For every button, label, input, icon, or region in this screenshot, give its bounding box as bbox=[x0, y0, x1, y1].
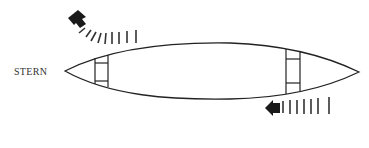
stern-label: STERN bbox=[14, 66, 47, 77]
motion-line bbox=[91, 32, 96, 41]
canoe-hull bbox=[65, 43, 359, 99]
motion-line bbox=[105, 33, 106, 44]
arrowhead-icon bbox=[265, 100, 280, 116]
arrowhead-icon bbox=[68, 10, 86, 28]
stern-sweep-arrow bbox=[68, 10, 136, 44]
motion-line bbox=[98, 33, 101, 43]
motion-line bbox=[86, 30, 91, 37]
bow-draw-arrow bbox=[265, 97, 329, 116]
canoe-diagram: STERN bbox=[0, 0, 369, 148]
motion-line bbox=[79, 28, 85, 33]
